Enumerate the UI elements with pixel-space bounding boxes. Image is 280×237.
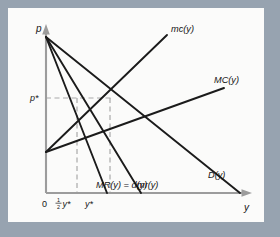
fraction-numerator: 1 (57, 197, 60, 203)
curve-label-D: D(y) (208, 170, 225, 180)
tick-label-p-star: p* (29, 93, 39, 103)
tick-label-half-y-star-value: y* (62, 199, 72, 209)
tick-label-y-star: y* (84, 199, 94, 209)
y-axis-label: y (243, 202, 250, 213)
fraction-denominator: 2 (57, 204, 60, 210)
p-axis-label: p (35, 23, 42, 34)
tick-label-half-y-star: 1 2 y* (56, 197, 72, 211)
curve-label-mr: MR(y) = d(y) (96, 180, 147, 190)
figure-root: p y mc(y) MC(y) D(y) mr(y) MR(y) = d(y) … (0, 0, 280, 237)
y-axis-arrowhead (242, 189, 253, 197)
curve-label-MC: MC(y) (214, 75, 239, 85)
diagram-svg: p y mc(y) MC(y) D(y) mr(y) MR(y) = d(y) … (0, 0, 280, 237)
curve-marginal-revenue-large (46, 37, 141, 193)
curve-label-mc: mc(y) (171, 24, 194, 34)
p-axis-arrowhead (42, 24, 50, 35)
origin-label: 0 (42, 199, 47, 209)
